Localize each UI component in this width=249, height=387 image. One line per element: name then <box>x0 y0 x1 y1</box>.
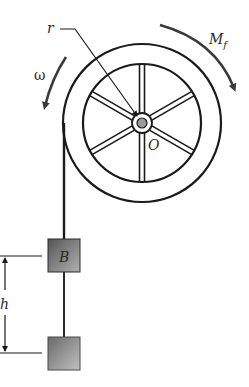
axle <box>137 118 147 128</box>
center-label: O <box>148 137 160 153</box>
angular-velocity-arrow <box>45 57 66 106</box>
radius-label: r <box>47 20 55 36</box>
block-lower-position <box>48 337 80 370</box>
radius-indicator <box>60 29 137 116</box>
block-b-label: B <box>58 249 69 265</box>
flywheel <box>63 44 221 202</box>
angular-velocity-label: ω <box>34 67 45 83</box>
pulley-diagram: r Mf ω O B h <box>0 0 249 387</box>
height-label: h <box>0 296 9 312</box>
friction-moment-label: Mf <box>208 31 229 50</box>
